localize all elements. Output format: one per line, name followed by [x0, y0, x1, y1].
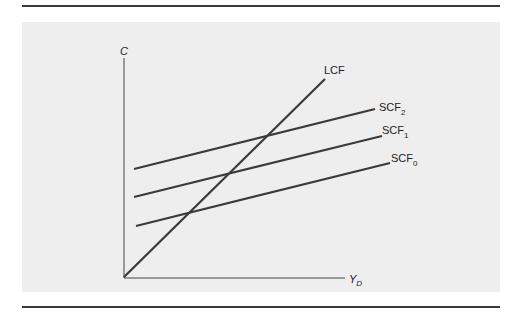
consumption-diagram: C YD LCF SCF2 SCF1 SCF0 [0, 0, 519, 312]
scf0-label: SCF0 [391, 152, 418, 168]
lcf-label: LCF [324, 64, 345, 76]
scf2-label: SCF2 [379, 101, 406, 117]
scf1-label: SCF1 [382, 124, 409, 140]
y-axis-label: C [120, 45, 128, 57]
scf2-line [134, 109, 375, 169]
scf0-line [136, 163, 390, 226]
x-axis-label: YD [349, 273, 362, 288]
lcf-line [124, 79, 325, 277]
